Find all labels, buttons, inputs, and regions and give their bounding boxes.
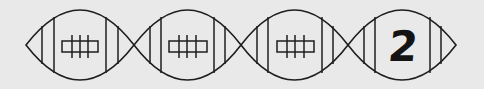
football-row-figure: 2	[0, 0, 484, 89]
laces-icon	[62, 35, 98, 58]
football-3	[241, 10, 348, 80]
laces-icon	[277, 35, 314, 58]
football-1	[26, 10, 134, 80]
laces-icon	[169, 35, 207, 58]
football-2	[134, 10, 241, 80]
football-number-label: 2	[381, 24, 426, 70]
